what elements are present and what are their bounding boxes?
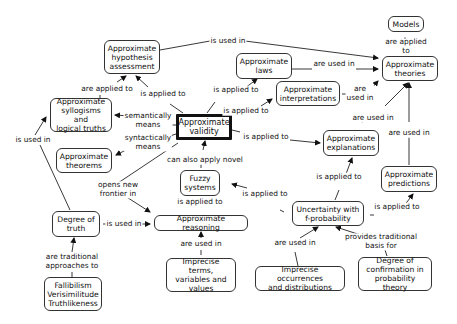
node-fuzzy-systems[interactable]: Fuzzy systems — [180, 170, 220, 196]
node-degree-of-confirmation[interactable]: Degree of confirmation in probability th… — [358, 257, 432, 291]
link-label-hyp-theories: is used in — [209, 37, 246, 46]
link-label-occ-unc: are used in — [273, 239, 316, 248]
node-fallibilism-verisimilitude-truthlikeness[interactable]: Fallibilism Verisimilitude Truthlikeness — [44, 277, 102, 311]
node-approximate-theories[interactable]: Approximate theories — [382, 56, 438, 81]
link-label-theories-models: are applied to — [381, 38, 432, 55]
link-label-val-thm: syntactically means — [124, 134, 172, 151]
node-imprecise-terms[interactable]: Imprecise terms, variables and values — [166, 258, 236, 292]
link-label-val-expl: is applied to — [242, 133, 289, 142]
link-label-fuzzy-val: can also apply novel — [166, 156, 244, 165]
link-label-deg-reason: is used in — [105, 220, 142, 229]
link-label-conf-unc: provides traditional basis for — [343, 233, 419, 250]
link-label-unc-fuzzy: is applied to — [241, 190, 288, 199]
link-label-val-syl: semantically means — [124, 112, 173, 129]
node-degree-of-truth[interactable]: Degree of truth — [52, 211, 100, 237]
link-label-pred-theories: are used in — [387, 129, 430, 138]
link-label-interp-theories: are used in — [346, 85, 375, 102]
link-label-val-laws: is applied to — [212, 86, 259, 95]
link-label-laws-theories: are used in — [312, 60, 355, 69]
link-label-terms-reason: are used in — [179, 240, 222, 249]
link-label-syl-hyp: are applied to — [80, 85, 133, 94]
node-approximate-hypothesis-assessment[interactable]: Approximate hypothesis assessment — [104, 40, 160, 74]
link-label-fal-deg: are traditional approaches to — [45, 253, 100, 270]
link-label-fuzzy-reason: is applied to — [176, 198, 223, 207]
link-label-expl-theories: are used in — [351, 114, 394, 123]
link-label-unc-pred: is applied to — [373, 203, 420, 212]
node-approximate-reasoning[interactable]: Approximate reasoning — [154, 215, 248, 231]
node-models[interactable]: Models — [388, 16, 424, 32]
node-approximate-predictions[interactable]: Approximate predictions — [381, 166, 437, 192]
link-label-deg-syl: is used in — [14, 136, 51, 145]
node-uncertainty-f-probability[interactable]: Uncertainty with f-probability — [292, 201, 364, 226]
link-label-val-hyp: is applied to — [139, 90, 186, 99]
node-approximate-theorems[interactable]: Approximate theorems — [56, 148, 112, 173]
link-label-val-reason: opens new frontier in — [97, 181, 139, 198]
node-approximate-interpretations[interactable]: Approximate interpretations — [276, 81, 340, 106]
link-label-val-interp: is applied to — [222, 107, 269, 116]
node-approximate-validity[interactable]: Approximate validity — [176, 114, 232, 140]
node-approximate-syllogisms[interactable]: Approximate syllogisms and logical truth… — [50, 98, 112, 132]
link-label-unc-expl: is applied to — [315, 173, 362, 182]
node-approximate-laws[interactable]: Approximate laws — [236, 53, 292, 79]
node-imprecise-occurrences[interactable]: Imprecise occurrences and distributions — [255, 266, 345, 291]
node-approximate-explanations[interactable]: Approximate explanations — [323, 130, 379, 156]
